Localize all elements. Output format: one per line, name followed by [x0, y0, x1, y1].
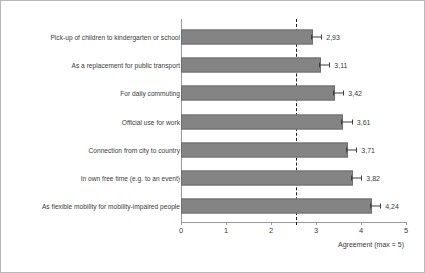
bar-row: Official use for work3,61 [1, 108, 425, 136]
value-label: 4,24 [385, 203, 399, 210]
error-bar-cap [319, 63, 320, 68]
bar-row: For daily commuting3,42 [1, 79, 425, 107]
x-tick-label: 1 [224, 226, 228, 235]
x-tick-mark [181, 222, 182, 225]
x-tick-label: 0 [179, 226, 183, 235]
error-bar-cap [311, 35, 312, 40]
value-label: 3,42 [348, 90, 362, 97]
error-bar-cap [343, 91, 344, 96]
category-label: In own free time (e.g. to an event) [81, 175, 180, 182]
bar-row: Connection from city to country3,71 [1, 136, 425, 164]
bar-row: As a replacement for public transport3,1… [1, 51, 425, 79]
x-tick-label: 4 [359, 226, 363, 235]
error-bar-cap [351, 176, 352, 181]
category-label: Pick-up of children to kindergarten or s… [50, 34, 180, 41]
error-bar-cap [341, 119, 342, 124]
x-axis-title: Agreement (max = 5) [338, 241, 404, 248]
category-label: Official use for work [122, 118, 180, 125]
error-bar [346, 149, 356, 150]
chart-figure: Pick-up of children to kindergarten or s… [0, 0, 425, 273]
x-tick-label: 2 [269, 226, 273, 235]
error-bar [351, 178, 361, 179]
value-label: 2,93 [326, 34, 340, 41]
x-axis-line [181, 222, 407, 223]
error-bar-cap [329, 63, 330, 68]
x-tick-label: 3 [314, 226, 318, 235]
category-label: As flexible mobility for mobility-impair… [42, 203, 180, 210]
bar [181, 58, 321, 73]
bar [181, 171, 353, 186]
bar [181, 86, 335, 101]
error-bar [333, 93, 343, 94]
category-label: For daily commuting [120, 90, 180, 97]
error-bar-cap [321, 35, 322, 40]
bar [181, 30, 313, 45]
error-bar-cap [333, 91, 334, 96]
error-bar [341, 121, 351, 122]
bar [181, 142, 348, 157]
x-tick-label: 5 [404, 226, 408, 235]
error-bar [311, 37, 321, 38]
bar-row: Pick-up of children to kindergarten or s… [1, 23, 425, 51]
value-label: 3,82 [366, 175, 380, 182]
plot-area: Pick-up of children to kindergarten or s… [1, 1, 425, 273]
error-bar-cap [370, 204, 371, 209]
error-bar-cap [352, 119, 353, 124]
error-bar-cap [346, 147, 347, 152]
category-label: As a replacement for public transport [72, 62, 181, 69]
bar [181, 199, 372, 214]
value-label: 3,71 [361, 146, 375, 153]
value-label: 3,61 [357, 118, 371, 125]
category-label: Connection from city to country [88, 146, 180, 153]
value-label: 3,11 [334, 62, 347, 69]
error-bar-cap [361, 176, 362, 181]
error-bar-cap [356, 147, 357, 152]
x-tick-mark [361, 222, 362, 225]
bar [181, 114, 343, 129]
x-tick-mark [271, 222, 272, 225]
error-bar [370, 206, 380, 207]
bar-row: In own free time (e.g. to an event)3,82 [1, 164, 425, 192]
error-bar [319, 65, 329, 66]
x-tick-mark [316, 222, 317, 225]
x-tick-mark [226, 222, 227, 225]
error-bar-cap [380, 204, 381, 209]
x-tick-mark [406, 222, 407, 225]
bar-row: As flexible mobility for mobility-impair… [1, 192, 425, 220]
